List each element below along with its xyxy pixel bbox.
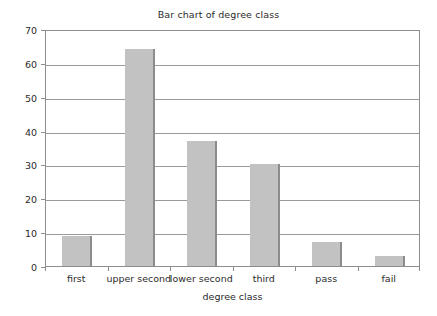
- bar-lower-second: [187, 141, 217, 266]
- y-axis-tick-label: 50: [25, 92, 37, 103]
- x-axis-tick-label: third: [253, 273, 275, 284]
- bar-fail: [375, 256, 405, 266]
- x-axis-tick-mark: [233, 267, 234, 271]
- y-axis-tick-labels: 010203040506070: [0, 0, 45, 316]
- x-axis-tick-mark: [170, 267, 171, 271]
- x-axis-tick-label: first: [67, 273, 86, 284]
- plot-area: [45, 30, 420, 267]
- y-axis-tick-label: 20: [25, 194, 37, 205]
- bars-layer: [46, 31, 419, 266]
- x-axis-tick-mark: [108, 267, 109, 271]
- bar-upper-second: [125, 49, 155, 266]
- y-axis-tick-label: 0: [31, 262, 37, 273]
- x-axis-title: degree class: [45, 291, 420, 302]
- x-axis-tick-label: lower second: [170, 273, 233, 284]
- x-axis-tick-label: fail: [382, 273, 396, 284]
- bar-first: [62, 236, 92, 266]
- y-axis-tick-label: 40: [25, 126, 37, 137]
- x-axis-tick-label: pass: [315, 273, 337, 284]
- chart-title: Bar chart of degree class: [0, 9, 437, 20]
- x-axis-tick-mark: [358, 267, 359, 271]
- x-axis-tick-mark: [295, 267, 296, 271]
- x-axis-tick-mark: [419, 267, 420, 271]
- x-axis-tick-mark: [45, 267, 46, 271]
- bar-third: [250, 164, 280, 266]
- y-axis-tick-label: 30: [25, 160, 37, 171]
- x-axis-tick-labels: firstupper secondlower secondthirdpassfa…: [45, 273, 420, 289]
- x-axis-tick-label: upper second: [106, 273, 171, 284]
- bar-pass: [312, 242, 342, 266]
- bar-chart-figure: Bar chart of degree class 01020304050607…: [0, 0, 437, 316]
- y-axis-tick-label: 10: [25, 228, 37, 239]
- y-axis-tick-label: 70: [25, 25, 37, 36]
- y-axis-tick-label: 60: [25, 58, 37, 69]
